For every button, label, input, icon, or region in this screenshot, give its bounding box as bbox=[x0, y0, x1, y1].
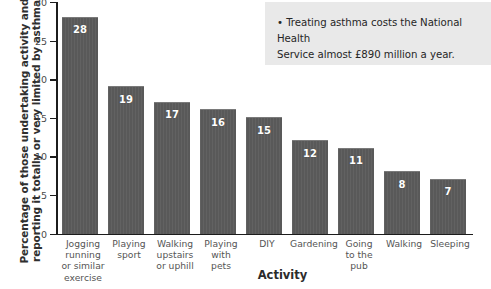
y-tick-label-30: 30 bbox=[3, 0, 47, 8]
y-tick-label-20: 20 bbox=[3, 74, 47, 85]
x-tick-label-line: sport bbox=[104, 249, 154, 260]
bar-jogging-running-or-similar-exercise[interactable]: 28 bbox=[62, 2, 98, 234]
annotation-callout: • Treating asthma costs the National Hea… bbox=[265, 2, 491, 65]
y-tick-label-10: 10 bbox=[3, 151, 47, 162]
bar-playing-with-pets[interactable]: 16 bbox=[200, 2, 236, 234]
bar-rect bbox=[200, 109, 236, 234]
bar-value-label: 16 bbox=[200, 117, 236, 128]
x-tick-label-line: Walking bbox=[378, 238, 430, 249]
bar-chart: Percentage of those undertaking activity… bbox=[0, 0, 491, 289]
bar-value-label: 19 bbox=[108, 94, 144, 105]
x-tick-label-line: Walking bbox=[150, 238, 200, 249]
x-axis-title: Activity bbox=[258, 268, 308, 282]
x-tick-label-line: Going bbox=[334, 238, 384, 249]
annotation-line-1: • Treating asthma costs the National Hea… bbox=[277, 15, 481, 47]
y-tick-label-5: 5 bbox=[3, 190, 47, 201]
bar-value-label: 7 bbox=[430, 186, 466, 197]
x-tick-label-walking: Walking bbox=[378, 238, 430, 249]
bar-value-label: 15 bbox=[246, 125, 282, 136]
bar-value-label: 12 bbox=[292, 148, 328, 159]
x-tick-label-walking-upstairs: Walking upstairs or uphill bbox=[150, 238, 200, 272]
y-tick-label-15: 15 bbox=[3, 112, 47, 123]
x-tick-label-line: Jogging bbox=[58, 238, 108, 249]
bar-playing-sport[interactable]: 19 bbox=[108, 2, 144, 234]
x-tick-label-line: Playing bbox=[196, 238, 246, 249]
bar-rect bbox=[62, 17, 98, 235]
bar-walking-upstairs-or-uphill[interactable]: 17 bbox=[154, 2, 190, 234]
x-tick-label-line: running bbox=[58, 249, 108, 260]
bar-rect bbox=[154, 102, 190, 235]
x-tick-label-playing-sport: Playing sport bbox=[104, 238, 154, 260]
x-axis-title-wrap: Activity bbox=[0, 268, 491, 282]
y-tick-label-25: 25 bbox=[3, 35, 47, 46]
bar-value-label: 8 bbox=[384, 179, 420, 190]
bar-value-label: 28 bbox=[62, 24, 98, 35]
annotation-line-2: Service almost £890 million a year. bbox=[277, 47, 481, 63]
x-tick-label-playing-with-pets: Playing with pets bbox=[196, 238, 246, 272]
x-tick-label-line: Playing bbox=[104, 238, 154, 249]
x-tick-label-line: with bbox=[196, 249, 246, 260]
bar-value-label: 17 bbox=[154, 109, 190, 120]
bar-value-label: 11 bbox=[338, 155, 374, 166]
x-tick-label-line: upstairs bbox=[150, 249, 200, 260]
x-tick-label-going-to-the-pub: Going to the pub bbox=[334, 238, 384, 272]
bar-rect bbox=[108, 86, 144, 234]
x-tick-label-line: Sleeping bbox=[424, 238, 476, 249]
y-tick-label-0: 0 bbox=[3, 228, 47, 239]
x-tick-label-line: to the bbox=[334, 249, 384, 260]
y-axis-title: Percentage of those undertaking activity… bbox=[13, 13, 47, 249]
x-tick-label-sleeping: Sleeping bbox=[424, 238, 476, 249]
